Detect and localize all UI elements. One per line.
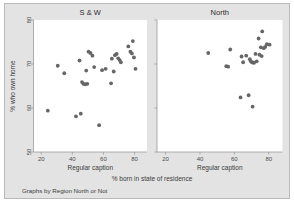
data-point [134,67,138,71]
x-tick-label-2-0: 20 [162,156,169,162]
data-point [132,56,136,60]
data-point [206,51,210,55]
y-tick-label-3: 80 [26,16,32,23]
x-tick-label-1-3: 80 [131,156,138,162]
x-tick-label-2-3: 80 [265,156,272,162]
data-point [91,54,95,58]
panel-title-1: S & W [80,8,102,17]
scatter-chart: S & W5060708020406080Regular captionNort… [0,0,294,203]
data-point [126,45,130,49]
data-point [240,55,244,59]
data-point [62,71,66,75]
data-point [228,48,232,52]
figure-note: Graphs by Region North or Not [22,187,108,194]
data-point [79,112,83,116]
figure-root: S & W5060708020406080Regular captionNort… [0,0,294,203]
data-point [241,60,245,64]
x-axis-title: % born in state of residence [112,175,193,182]
data-point [46,109,50,113]
data-point [104,67,108,71]
data-point [110,57,114,61]
data-point [74,114,78,118]
data-point [244,54,248,58]
x-tick-label-1-1: 40 [69,156,76,162]
y-tick-label-0: 50 [26,148,32,155]
data-point [130,52,134,56]
panel-2: North20406080Regular caption [155,8,283,172]
data-point [254,52,258,56]
data-point [239,96,243,100]
data-point [97,123,101,127]
x-tick-label-1-2: 60 [100,156,107,162]
y-axis-title: % who own home [9,60,16,112]
data-point [78,59,82,63]
panel-caption-1: Regular caption [67,164,113,172]
x-tick-label-1-0: 20 [38,156,45,162]
y-tick-label-2: 70 [26,60,32,67]
y-tick-label-1: 60 [26,104,32,111]
panel-1: S & W5060708020406080Regular caption [26,8,147,172]
data-point [112,70,116,74]
data-point [260,54,264,58]
data-point [119,60,123,64]
x-tick-label-2-1: 40 [197,156,204,162]
data-point [247,93,251,97]
x-tick-label-2-2: 60 [231,156,238,162]
data-point [260,30,264,34]
data-point [115,52,119,56]
data-point [255,59,259,63]
panel-title-2: North [211,8,229,17]
data-point [226,65,230,69]
data-point [109,81,113,85]
data-point [257,37,261,41]
data-point [131,39,135,43]
panel-caption-2: Regular caption [197,164,243,172]
data-point [92,65,96,69]
data-point [100,68,104,72]
data-point [56,64,60,68]
data-point [84,69,88,73]
data-point [251,105,255,109]
data-point [85,82,89,86]
panel-plot-area [34,20,148,152]
data-point [268,43,272,47]
panel-plot-area [157,20,283,152]
